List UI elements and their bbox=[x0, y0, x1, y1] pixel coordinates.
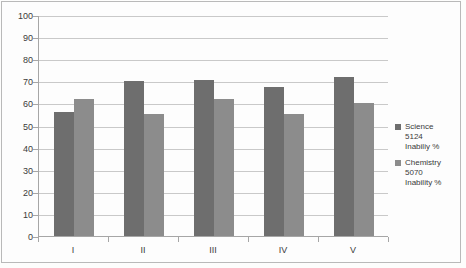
x-axis-tick-label: IV bbox=[263, 245, 303, 255]
legend-label-line: 5070 bbox=[405, 168, 441, 178]
legend-label-line: Inability % bbox=[405, 178, 441, 188]
legend-entry: Chemistry5070Inability % bbox=[395, 158, 465, 188]
bar bbox=[264, 87, 284, 236]
y-axis-tick-label: 60 bbox=[3, 100, 33, 109]
x-axis-tick-mark bbox=[108, 237, 109, 242]
legend-label: Chemistry5070Inability % bbox=[405, 158, 441, 188]
chart-legend: Science5124Inabiliy %Chemistry5070Inabil… bbox=[395, 122, 465, 194]
x-axis-tick-mark bbox=[38, 237, 39, 242]
bar bbox=[74, 99, 94, 236]
y-axis-tick-label: 20 bbox=[3, 189, 33, 198]
legend-swatch bbox=[395, 160, 401, 166]
x-axis-tick-label: II bbox=[123, 245, 163, 255]
bar bbox=[334, 77, 354, 236]
bar-group bbox=[194, 16, 233, 236]
legend-label-line: Chemistry bbox=[405, 158, 441, 168]
y-axis-tick-label: 30 bbox=[3, 167, 33, 176]
x-axis-tick-mark bbox=[178, 237, 179, 242]
bar-group bbox=[264, 16, 303, 236]
bar bbox=[214, 99, 234, 236]
legend-entry: Science5124Inabiliy % bbox=[395, 122, 465, 152]
y-axis-tick-label: 80 bbox=[3, 56, 33, 65]
legend-label: Science5124Inabiliy % bbox=[405, 122, 439, 152]
bar bbox=[54, 112, 74, 236]
y-axis-tick-label: 90 bbox=[3, 34, 33, 43]
bar bbox=[124, 81, 144, 236]
bar-group bbox=[124, 16, 163, 236]
x-axis-tick-mark bbox=[248, 237, 249, 242]
chart-screenshot: 0102030405060708090100 IIIIIIIVV Science… bbox=[0, 0, 466, 268]
bar-group bbox=[54, 16, 93, 236]
bar bbox=[354, 103, 374, 236]
bar bbox=[144, 114, 164, 236]
y-axis-tick-label: 100 bbox=[3, 12, 33, 21]
y-axis-tick-label: 0 bbox=[3, 233, 33, 242]
legend-label-line: Science bbox=[405, 122, 439, 132]
x-axis-tick-label: V bbox=[333, 245, 373, 255]
x-axis-tick-mark bbox=[318, 237, 319, 242]
x-axis-tick-label: I bbox=[53, 245, 93, 255]
plot-area bbox=[38, 16, 388, 237]
legend-swatch bbox=[395, 124, 401, 130]
bar bbox=[284, 114, 304, 236]
legend-label-line: 5124 bbox=[405, 132, 439, 142]
y-axis-tick-label: 40 bbox=[3, 145, 33, 154]
legend-label-line: Inabiliy % bbox=[405, 142, 439, 152]
bar bbox=[194, 80, 214, 236]
y-axis-tick-label: 50 bbox=[3, 123, 33, 132]
x-axis-tick-mark bbox=[388, 237, 389, 242]
bar-group bbox=[334, 16, 373, 236]
y-axis-tick-label: 70 bbox=[3, 78, 33, 87]
x-axis-tick-label: III bbox=[193, 245, 233, 255]
y-axis-tick-label: 10 bbox=[3, 211, 33, 220]
